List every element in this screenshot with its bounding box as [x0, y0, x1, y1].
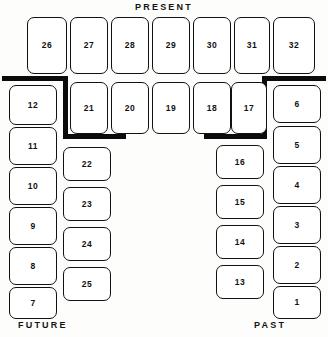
seat-label: 29 [166, 41, 176, 50]
seat-label: 11 [28, 142, 38, 151]
seat-box-26[interactable]: 26 [27, 17, 67, 74]
seat-box-13[interactable]: 13 [216, 265, 264, 299]
wall-right-bottom [204, 134, 267, 139]
seat-label: 1 [294, 298, 299, 307]
seat-box-28[interactable]: 28 [111, 17, 149, 74]
seat-box-29[interactable]: 29 [152, 17, 190, 74]
seat-label: 4 [294, 181, 299, 190]
seat-label: 12 [28, 101, 38, 110]
seat-box-21[interactable]: 21 [70, 82, 108, 134]
seat-label: 32 [289, 41, 299, 50]
heading-present: PRESENT [0, 2, 328, 12]
seat-label: 24 [82, 240, 92, 249]
seat-label: 17 [244, 104, 254, 113]
seat-box-17[interactable]: 17 [231, 82, 267, 134]
seat-box-19[interactable]: 19 [152, 82, 190, 134]
seat-label: 2 [294, 261, 299, 270]
seat-label: 23 [82, 200, 92, 209]
seat-box-4[interactable]: 4 [273, 166, 321, 204]
seat-box-11[interactable]: 11 [9, 127, 57, 165]
seat-box-31[interactable]: 31 [234, 17, 270, 74]
seat-box-14[interactable]: 14 [216, 225, 264, 259]
seat-box-27[interactable]: 27 [70, 17, 108, 74]
seat-label: 27 [84, 41, 94, 50]
seat-box-32[interactable]: 32 [273, 17, 315, 74]
seat-label: 3 [294, 221, 299, 230]
seat-box-2[interactable]: 2 [273, 246, 321, 284]
seat-label: 7 [30, 299, 35, 308]
seat-box-9[interactable]: 9 [9, 207, 57, 245]
seat-label: 19 [166, 104, 176, 113]
seating-chart-diagram: PRESENT FUTURE PAST 26272829303132122120… [0, 0, 328, 337]
seat-box-15[interactable]: 15 [216, 185, 264, 219]
seat-label: 10 [28, 182, 38, 191]
seat-box-25[interactable]: 25 [63, 267, 111, 301]
seat-box-6[interactable]: 6 [273, 85, 321, 123]
seat-label: 26 [42, 41, 52, 50]
seat-label: 25 [82, 280, 92, 289]
seat-box-8[interactable]: 8 [9, 247, 57, 285]
seat-box-20[interactable]: 20 [111, 82, 149, 134]
seat-label: 28 [125, 41, 135, 50]
seat-label: 13 [235, 278, 245, 287]
heading-future: FUTURE [18, 320, 68, 330]
seat-label: 5 [294, 141, 299, 150]
wall-left-top [2, 76, 68, 81]
seat-label: 8 [30, 262, 35, 271]
seat-box-30[interactable]: 30 [193, 17, 231, 74]
seat-box-22[interactable]: 22 [63, 147, 111, 181]
seat-label: 20 [125, 104, 135, 113]
wall-left-bottom [63, 134, 126, 139]
seat-label: 14 [235, 238, 245, 247]
seat-label: 18 [207, 104, 217, 113]
seat-box-1[interactable]: 1 [273, 286, 321, 319]
seat-box-24[interactable]: 24 [63, 227, 111, 261]
seat-label: 9 [30, 222, 35, 231]
heading-past: PAST [254, 320, 286, 330]
wall-left-vertical [63, 76, 68, 139]
seat-label: 16 [235, 158, 245, 167]
seat-box-7[interactable]: 7 [9, 287, 57, 319]
seat-label: 21 [84, 104, 94, 113]
seat-label: 30 [207, 41, 217, 50]
seat-box-3[interactable]: 3 [273, 206, 321, 244]
seat-label: 22 [82, 160, 92, 169]
seat-label: 6 [294, 100, 299, 109]
seat-box-16[interactable]: 16 [216, 145, 264, 179]
seat-label: 31 [247, 41, 257, 50]
wall-right-top [262, 76, 326, 81]
seat-box-18[interactable]: 18 [193, 82, 231, 134]
seat-box-12[interactable]: 12 [9, 85, 57, 125]
seat-label: 15 [235, 198, 245, 207]
seat-box-23[interactable]: 23 [63, 187, 111, 221]
seat-box-10[interactable]: 10 [9, 167, 57, 205]
seat-box-5[interactable]: 5 [273, 126, 321, 164]
